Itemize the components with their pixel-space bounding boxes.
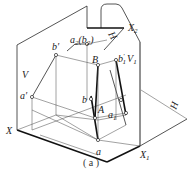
label-b1-prime-V1: b′1V1 <box>118 52 137 66</box>
point-a1 <box>124 111 127 114</box>
B-to-b1prime <box>98 60 116 65</box>
label-X2: X2 <box>127 22 138 35</box>
label-A: A <box>97 104 105 115</box>
point-a-prime <box>30 95 33 98</box>
h-line-4 <box>17 115 56 130</box>
a-to-X1 <box>98 140 140 146</box>
v1-plane-outline <box>101 4 140 146</box>
label-a1: a1 <box>108 109 117 122</box>
label-a-prime: a′ <box>20 90 28 101</box>
label-B: B <box>92 54 98 65</box>
h-line-7 <box>56 115 98 140</box>
point-a <box>96 138 99 141</box>
point-b <box>89 97 92 100</box>
a2b2-leader <box>67 44 75 51</box>
figure-caption: ( a ) <box>83 157 99 169</box>
point-a1-upper <box>119 98 122 101</box>
label-X: X <box>5 125 13 136</box>
h-line-5 <box>98 125 126 140</box>
bprime-aprime-line <box>32 55 56 97</box>
label-H-right: H <box>167 99 180 111</box>
label-b: b <box>82 94 87 105</box>
label-X1: X1 <box>139 149 150 162</box>
point-A <box>93 116 96 119</box>
h-line-3 <box>56 115 98 120</box>
label-b-prime: b′ <box>52 41 60 52</box>
point-b-prime <box>54 53 57 56</box>
v-plane-outline <box>17 6 87 130</box>
label-a: a <box>96 146 101 157</box>
projection-diagram: V X a′ b′ b A B a a1 a2(b2) b′1V1 X2 X1 … <box>0 0 192 169</box>
h-plane-right-edge <box>140 119 187 146</box>
h-line-8 <box>40 135 98 155</box>
h-plane-front-edge <box>107 146 140 162</box>
label-V: V <box>22 69 30 80</box>
